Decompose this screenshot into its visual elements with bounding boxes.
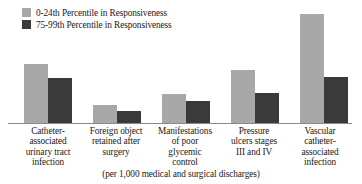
chart-caption: (per 1,000 medical and surgical discharg… xyxy=(0,169,362,180)
category-label-line: infection xyxy=(272,157,362,167)
category-label-line: control xyxy=(137,157,233,167)
bar-glycemic-control-low xyxy=(162,94,186,123)
category-label-line: associated xyxy=(272,147,362,157)
bar-chart-figure: 0-24th Percentile in Responsiveness 75-9… xyxy=(0,0,362,184)
bar-group-pressure-ulcers xyxy=(231,12,279,123)
bar-pressure-ulcers-high xyxy=(255,93,279,123)
bar-group-catheter-associated-uti xyxy=(24,12,72,123)
category-label-line: infection xyxy=(0,157,96,167)
bar-group-foreign-object xyxy=(93,12,141,123)
category-label-line: catheter- xyxy=(272,136,362,146)
x-axis-line xyxy=(8,123,352,124)
bar-vascular-catheter-high xyxy=(324,77,348,123)
bar-catheter-associated-uti-high xyxy=(48,78,72,123)
bar-foreign-object-high xyxy=(117,111,141,123)
x-axis-category-labels: Catheter- associated urinary tract infec… xyxy=(0,126,362,168)
bar-glycemic-control-high xyxy=(186,101,210,123)
plot-area xyxy=(12,12,350,123)
category-label-line: Vascular xyxy=(272,126,362,136)
bar-vascular-catheter-low xyxy=(300,14,324,123)
bar-group-glycemic-control xyxy=(162,12,210,123)
category-label-vascular-catheter: Vascular catheter- associated infection xyxy=(272,126,362,168)
bar-group-vascular-catheter xyxy=(300,12,348,123)
bar-pressure-ulcers-low xyxy=(231,70,255,123)
bar-foreign-object-low xyxy=(93,105,117,123)
bar-catheter-associated-uti-low xyxy=(24,64,48,123)
